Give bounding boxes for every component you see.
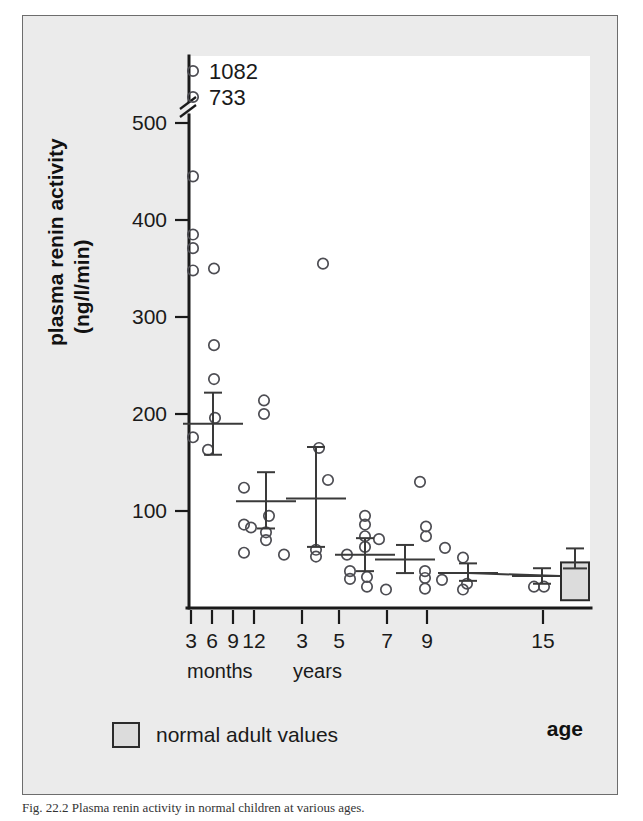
y-tick-label: 300: [132, 305, 167, 328]
y-tick-label: 100: [132, 499, 167, 522]
y-tick-label: 400: [132, 208, 167, 231]
x-tick-label: 6: [206, 629, 218, 652]
outlier-label: 733: [209, 85, 246, 110]
x-tick-label: 9: [421, 629, 433, 652]
x-tick-label: 15: [531, 629, 554, 652]
y-axis-title-line1: plasma renin activity: [44, 138, 67, 346]
x-tick-label: 3: [185, 629, 197, 652]
outlier-label: 1082: [209, 59, 258, 84]
x-tick-label: 5: [333, 629, 345, 652]
x-tick-label: 3: [296, 629, 308, 652]
x-tick-label: 12: [242, 629, 265, 652]
figure-caption: Fig. 22.2 Plasma renin activity in norma…: [22, 800, 618, 816]
renin-scatter-chart: 10020030040050036912357915 plasma renin …: [23, 16, 619, 796]
y-tick-label: 200: [132, 402, 167, 425]
y-tick-label: 500: [132, 111, 167, 134]
y-axis-title-line2: (ng/l/min): [70, 240, 93, 334]
legend-swatch: [113, 723, 139, 747]
x-group-label-years: years: [293, 660, 342, 682]
x-group-label-months: months: [187, 660, 253, 682]
x-tick-label: 9: [227, 629, 239, 652]
legend-layer: normal adult values: [113, 723, 338, 747]
x-axis-title-age: age: [547, 717, 583, 740]
figure-frame: 10020030040050036912357915 plasma renin …: [22, 15, 618, 795]
x-tick-label: 7: [381, 629, 393, 652]
legend-label-adult: normal adult values: [156, 723, 338, 746]
